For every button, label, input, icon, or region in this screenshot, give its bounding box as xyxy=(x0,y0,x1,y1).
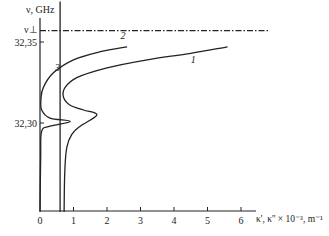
x-tick-label: 3 xyxy=(138,215,143,226)
x-tick-label: 0 xyxy=(38,215,43,226)
curve-label-1: 1 xyxy=(191,54,196,65)
y-tick-label: 32,35 xyxy=(15,37,38,48)
series-2-line xyxy=(40,47,127,212)
y-tick-label: 32,30 xyxy=(15,118,38,129)
curve-labels: 123 xyxy=(54,30,196,73)
x-tick-label: 2 xyxy=(105,215,110,226)
x-tick-label: 6 xyxy=(239,215,244,226)
reference-line-label: ν⊥ xyxy=(24,24,38,35)
x-ticks: 0123456 xyxy=(38,207,244,226)
x-tick-label: 5 xyxy=(205,215,210,226)
x-tick-label: 4 xyxy=(172,215,177,226)
series-1-line xyxy=(63,47,228,212)
series-group xyxy=(40,2,228,213)
curve-label-2: 2 xyxy=(120,30,125,41)
y-axis-label: ν, GHz xyxy=(26,4,55,15)
curve-label-3: 3 xyxy=(54,62,60,73)
chart-svg: ν, GHz κ', κ'' × 10⁻³, m⁻¹ 0123456 32,30… xyxy=(0,0,329,236)
x-tick-label: 1 xyxy=(71,215,76,226)
x-axis-label: κ', κ'' × 10⁻³, m⁻¹ xyxy=(256,214,323,224)
